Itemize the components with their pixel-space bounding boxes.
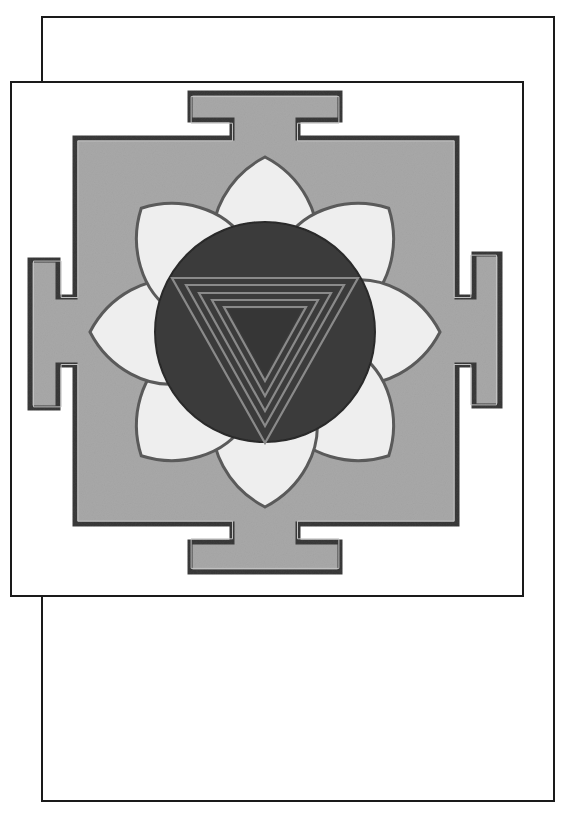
yantra-artwork [0,0,564,814]
